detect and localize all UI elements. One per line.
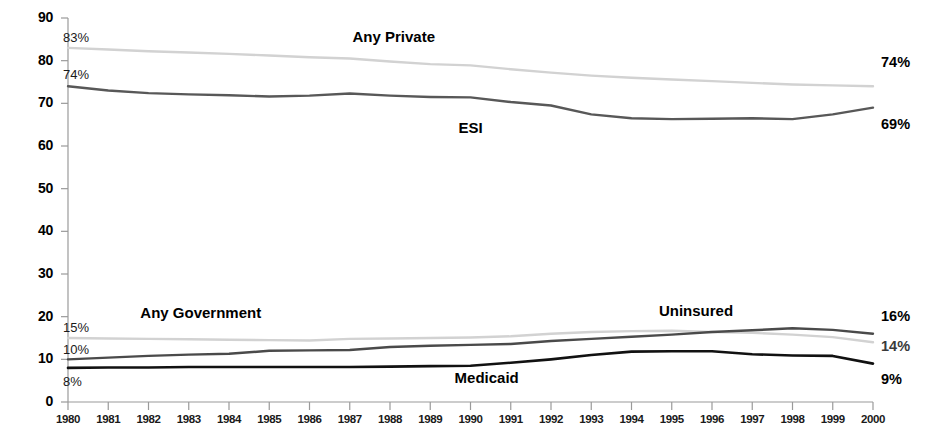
end-value-label-any-private: 74% (881, 54, 910, 70)
series-label-medicaid: Medicaid (455, 369, 519, 386)
x-axis-tick-label: 1982 (127, 413, 171, 425)
x-axis-tick-label: 1989 (408, 413, 452, 425)
axis-group (61, 18, 873, 410)
start-value-label-any-private: 83% (63, 30, 89, 45)
x-axis-tick-label: 1999 (811, 413, 855, 425)
x-axis-tick-label: 1981 (86, 413, 130, 425)
x-axis-tick-label: 1980 (46, 413, 90, 425)
series-label-esi: ESI (459, 119, 483, 136)
start-value-label-uninsured: 10% (63, 342, 89, 357)
series-line-any-private (68, 48, 873, 86)
y-axis-tick-label: 20 (25, 308, 53, 324)
y-axis-tick-label: 50 (25, 180, 53, 196)
start-value-label-any-government: 15% (63, 320, 89, 335)
x-axis-tick-label: 1984 (207, 413, 251, 425)
start-value-label-esi: 74% (63, 67, 89, 82)
end-value-label-medicaid: 9% (881, 371, 902, 387)
x-axis-tick-label: 1991 (489, 413, 533, 425)
y-axis-tick-label: 10 (25, 350, 53, 366)
y-axis-tick-label: 60 (25, 137, 53, 153)
x-axis-tick-label: 1994 (610, 413, 654, 425)
x-axis-tick-label: 1988 (368, 413, 412, 425)
x-axis-tick-label: 1993 (569, 413, 613, 425)
line-chart: 9080706050403020100198019811982198319841… (0, 0, 930, 447)
end-value-label-any-government: 14% (881, 338, 910, 354)
series-line-any-government (68, 331, 873, 343)
y-axis-tick-label: 30 (25, 265, 53, 281)
y-axis-tick-label: 70 (25, 94, 53, 110)
x-axis-tick-label: 1997 (730, 413, 774, 425)
x-axis-tick-label: 1985 (247, 413, 291, 425)
series-line-esi (68, 86, 873, 119)
series-label-uninsured: Uninsured (659, 302, 733, 319)
series-label-any-private: Any Private (353, 28, 436, 45)
x-axis-tick-label: 1992 (529, 413, 573, 425)
y-axis-tick-label: 90 (25, 9, 53, 25)
y-axis-tick-label: 40 (25, 222, 53, 238)
end-value-label-esi: 69% (881, 116, 910, 132)
x-axis-tick-label: 1996 (690, 413, 734, 425)
x-axis-tick-label: 1990 (449, 413, 493, 425)
x-axis-tick-label: 1998 (771, 413, 815, 425)
end-value-label-uninsured: 16% (881, 308, 910, 324)
x-axis-tick-label: 1995 (650, 413, 694, 425)
y-axis-tick-label: 0 (25, 393, 53, 409)
start-value-label-medicaid: 8% (63, 374, 82, 389)
y-axis-tick-label: 80 (25, 52, 53, 68)
x-axis-tick-label: 1987 (328, 413, 372, 425)
x-axis-tick-label: 2000 (851, 413, 895, 425)
series-label-any-government: Any Government (140, 304, 261, 321)
x-axis-tick-label: 1986 (288, 413, 332, 425)
x-axis-tick-label: 1983 (167, 413, 211, 425)
